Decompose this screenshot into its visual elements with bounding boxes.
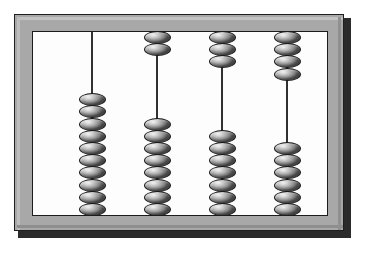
bead-rod-2-top-2[interactable] [144,43,171,56]
bead-rod-2-bottom-2[interactable] [144,191,171,204]
bead-rod-1-bottom-6[interactable] [79,142,106,155]
bead-rod-4-bottom-2[interactable] [274,191,301,204]
bead-rod-4-top-4[interactable] [274,68,301,81]
bead-rod-3-bottom-4[interactable] [209,166,236,179]
bead-rod-3-bottom-6[interactable] [209,142,236,155]
frame-bevel-left [17,17,20,230]
abacus-image [0,0,365,256]
abacus-board [32,31,328,216]
bead-rod-4-bottom-1[interactable] [274,203,301,216]
bead-rod-3-bottom-7[interactable] [209,130,236,143]
bead-rod-4-top-2[interactable] [274,43,301,56]
bead-rod-2-bottom-8[interactable] [144,118,171,131]
frame-bevel-bottom [17,225,343,228]
bead-rod-3-bottom-2[interactable] [209,191,236,204]
bead-rod-2-bottom-3[interactable] [144,179,171,192]
bead-rod-2-bottom-6[interactable] [144,142,171,155]
bead-rod-3-top-1[interactable] [209,31,236,44]
bead-rod-1-bottom-3[interactable] [79,179,106,192]
abacus-frame [14,14,344,231]
bead-rod-4-bottom-5[interactable] [274,154,301,167]
bead-rod-1-bottom-9[interactable] [79,105,106,118]
bead-rod-1-bottom-4[interactable] [79,166,106,179]
bead-rod-2-bottom-4[interactable] [144,166,171,179]
bead-rod-2-bottom-1[interactable] [144,203,171,216]
bead-rod-3-bottom-5[interactable] [209,154,236,167]
bead-rod-3-bottom-3[interactable] [209,179,236,192]
bead-rod-4-top-1[interactable] [274,31,301,44]
frame-bevel-right [338,17,341,230]
bead-rod-3-top-2[interactable] [209,43,236,56]
bead-rod-3-top-3[interactable] [209,55,236,68]
bead-rod-1-bottom-7[interactable] [79,130,106,143]
bead-rod-3-bottom-1[interactable] [209,203,236,216]
bead-rod-2-bottom-5[interactable] [144,154,171,167]
bead-rod-4-bottom-4[interactable] [274,166,301,179]
bead-rod-4-top-3[interactable] [274,55,301,68]
bead-rod-1-bottom-8[interactable] [79,118,106,131]
bead-rod-1-bottom-5[interactable] [79,154,106,167]
abacus [14,14,351,238]
bead-rod-2-bottom-7[interactable] [144,130,171,143]
bead-rod-1-bottom-10[interactable] [79,93,106,106]
bead-rod-1-bottom-1[interactable] [79,203,106,216]
frame-bevel-top [17,17,343,20]
bead-rod-4-bottom-3[interactable] [274,179,301,192]
bead-rod-1-bottom-2[interactable] [79,191,106,204]
bead-rod-4-bottom-6[interactable] [274,142,301,155]
bead-rod-2-top-1[interactable] [144,31,171,44]
